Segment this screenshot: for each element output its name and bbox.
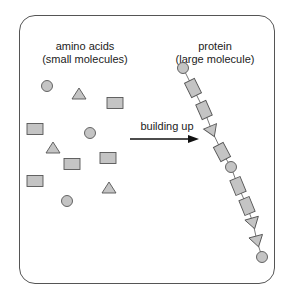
circle-amino-acid-icon: [226, 162, 237, 173]
amino-acid-group: [27, 81, 123, 207]
rectangle-amino-acid-icon: [64, 159, 80, 170]
rectangle-amino-acid-icon: [213, 142, 230, 161]
triangle-amino-acid-icon: [72, 88, 86, 99]
rectangle-amino-acid-icon: [100, 153, 116, 164]
rectangle-amino-acid-icon: [239, 197, 255, 216]
rectangle-amino-acid-icon: [196, 100, 213, 119]
rectangle-amino-acid-icon: [230, 177, 246, 196]
triangle-amino-acid-icon: [204, 124, 221, 140]
rectangle-amino-acid-icon: [27, 124, 43, 135]
triangle-amino-acid-icon: [245, 216, 261, 230]
circle-amino-acid-icon: [85, 128, 96, 139]
building-up-arrow: [130, 135, 199, 143]
triangle-amino-acid-icon: [249, 234, 265, 248]
circle-amino-acid-icon: [62, 196, 73, 207]
diagram-canvas: [0, 0, 292, 300]
circle-amino-acid-icon: [42, 81, 53, 92]
triangle-amino-acid-icon: [46, 142, 60, 153]
circle-amino-acid-icon: [178, 63, 189, 74]
rectangle-amino-acid-icon: [185, 78, 202, 97]
circle-amino-acid-icon: [257, 252, 268, 263]
rectangle-amino-acid-icon: [27, 176, 43, 187]
rectangle-amino-acid-icon: [107, 98, 123, 109]
protein-chain: [178, 63, 268, 263]
triangle-amino-acid-icon: [102, 182, 116, 193]
